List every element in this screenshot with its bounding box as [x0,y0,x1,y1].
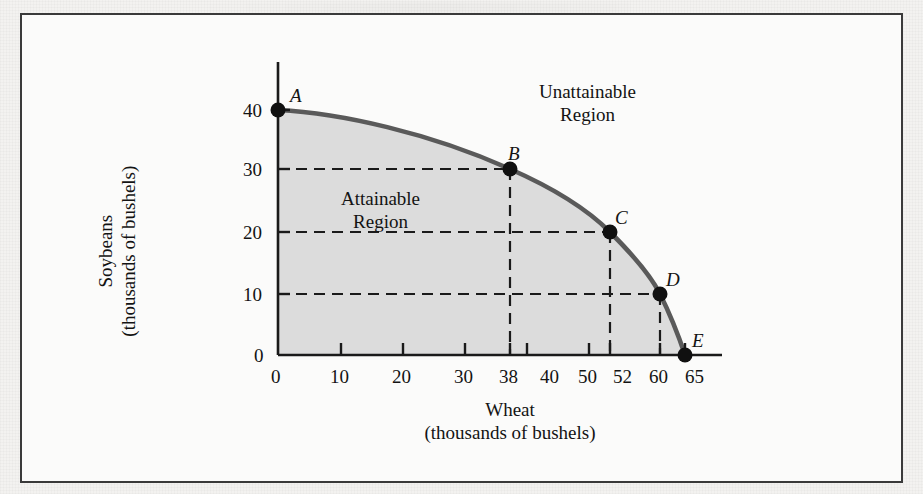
y-tick-label-20: 20 [243,222,262,244]
point-label-d: D [666,269,680,291]
y-axis-title-wrapper: Soybeans (thousands of bushels) [94,121,140,381]
attainable-region-line2: Region [318,210,443,233]
x-axis-title-main: Wheat [380,398,640,421]
y-axis-title-sub: (thousands of bushels) [117,121,140,381]
x-tick-label-65: 65 [685,366,704,388]
x-tick-label-20: 20 [392,366,411,388]
data-point-e [678,348,693,363]
attainable-region-line1: Attainable [318,187,443,210]
x-tick-label-10: 10 [330,366,349,388]
point-label-e: E [692,330,704,352]
attainable-region-label: Attainable Region [318,187,443,233]
y-tick-label-40: 40 [243,100,262,122]
unattainable-region-line1: Unattainable [505,80,670,103]
y-tick-label-10: 10 [243,284,262,306]
point-label-b: B [508,143,520,165]
point-label-c: C [615,207,628,229]
y-tick-label-30: 30 [243,159,262,181]
x-axis-title-sub: (thousands of bushels) [380,421,640,444]
x-tick-label-40: 40 [540,366,559,388]
x-tick-label-30: 30 [454,366,473,388]
unattainable-region-label: Unattainable Region [505,80,670,126]
x-tick-label-0: 0 [271,366,281,388]
y-tick-label-0: 0 [254,345,264,367]
data-point-a [271,103,286,118]
x-tick-label-50: 50 [578,366,597,388]
point-label-a: A [290,85,302,107]
unattainable-region-line2: Region [505,103,670,126]
x-tick-label-38: 38 [499,366,518,388]
x-tick-label-60: 60 [649,366,668,388]
x-axis-title: Wheat (thousands of bushels) [380,398,640,444]
x-tick-label-52: 52 [613,366,632,388]
y-axis-title: Soybeans (thousands of bushels) [94,121,140,381]
y-axis-title-main: Soybeans [94,121,117,381]
